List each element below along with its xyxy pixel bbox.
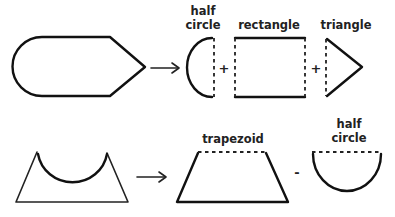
composite-shapes-diagram: half circle + rectangle + triangle trape… [0,0,395,217]
row2-composite-shape [16,152,128,202]
row1-triangle: triangle [320,18,371,96]
plus-operator-2: + [311,61,322,76]
trapezoid-label: trapezoid [202,132,264,146]
half-circle-2-label-line2: circle [332,131,367,145]
half-circle-label-line2: circle [186,18,221,32]
semicircle-cutout [38,154,107,182]
row1-rectangle: rectangle [235,18,305,97]
half-circle-arc [187,38,212,97]
half-circle-label-line1: half [191,4,217,18]
plus-operator-1: + [219,61,230,76]
row1-arrow [151,63,179,73]
minus-operator: - [294,165,299,180]
row1-half-circle: half circle [186,4,221,97]
rectangle-label: rectangle [238,18,300,32]
half-circle-2-label-line1: half [337,117,363,131]
triangle-label: triangle [320,18,371,32]
row2-trapezoid: trapezoid [177,132,288,202]
pentagon-rounded-shape [13,37,145,96]
row2-arrow [137,172,166,182]
row1-composite-shape [13,37,145,96]
row2-half-circle: half circle [312,117,382,191]
